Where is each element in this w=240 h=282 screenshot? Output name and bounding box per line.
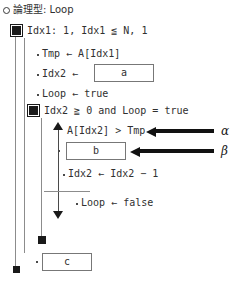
statement-idx2-decrement[interactable]: Idx2 ← Idx2 − 1 <box>68 168 158 180</box>
flowchart-canvas: 論理型: Loop Idx1: 1, Idx1 ≦ N, 1 Tmp ← A[I… <box>0 0 240 282</box>
statement-idx2-assign[interactable]: Idx2 ← <box>42 68 78 80</box>
for-loop-body-rail <box>24 38 25 253</box>
input-box-b[interactable]: b <box>66 142 126 160</box>
for-loop-header[interactable]: Idx1: 1, Idx1 ≦ N, 1 <box>27 25 147 37</box>
annotation-arrow-alpha <box>146 127 214 134</box>
while-loop-header[interactable]: Idx2 ≧ 0 and Loop = true <box>44 105 189 117</box>
bullet-dot-icon <box>58 150 60 152</box>
while-loop-end-marker <box>38 236 46 244</box>
annotation-label-alpha: α <box>221 124 229 138</box>
while-loop-body-rail <box>41 118 42 238</box>
input-box-a[interactable]: a <box>94 64 154 82</box>
arrow-shaft <box>155 129 214 133</box>
triangle-down-marker <box>53 211 63 219</box>
statement-tmp-assign[interactable]: Tmp ← A[Idx1] <box>42 48 120 60</box>
bullet-dot-icon <box>76 203 78 205</box>
statement-loop-false[interactable]: Loop ← false <box>81 197 153 209</box>
for-loop-marker[interactable] <box>11 25 22 36</box>
bullet-dot-icon <box>37 74 39 76</box>
loop-back-crossbar <box>44 191 90 192</box>
loop-back-axis <box>58 129 59 213</box>
diagram-title: 論理型: Loop <box>13 4 74 16</box>
arrow-shaft <box>139 149 214 153</box>
while-loop-marker[interactable] <box>28 105 39 116</box>
input-box-c[interactable]: c <box>42 253 92 271</box>
bullet-dot-icon <box>63 174 65 176</box>
outer-rail-end-marker <box>13 266 20 273</box>
annotation-label-beta: β <box>221 144 228 158</box>
annotation-arrow-beta <box>130 147 214 154</box>
bullet-dot-icon <box>37 94 39 96</box>
bullet-dot-icon <box>36 261 38 263</box>
outer-rail <box>15 35 16 268</box>
circle-open-marker <box>3 7 10 14</box>
statement-loop-true[interactable]: Loop ← true <box>42 88 108 100</box>
triangle-up-marker <box>53 122 63 130</box>
condition-a-greater-tmp[interactable]: A[Idx2] > Tmp <box>67 125 145 137</box>
bullet-dot-icon <box>37 54 39 56</box>
